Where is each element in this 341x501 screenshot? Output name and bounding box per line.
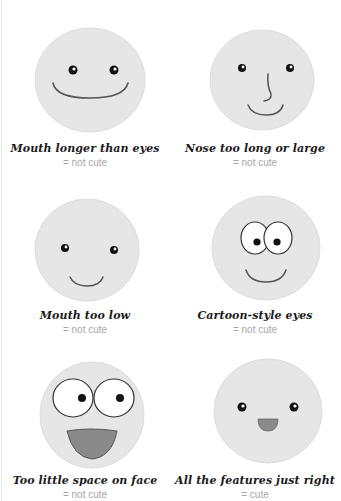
panel-title: Mouth longer than eyes (0, 142, 170, 155)
panel-just-right: All the features just right = cute (170, 335, 340, 500)
panel-nose-long: Nose too long or large = not cute (170, 0, 340, 165)
panel-title: Mouth too low (0, 309, 170, 322)
panel-mouth-low: Mouth too low = not cute (0, 170, 170, 335)
panel-little-space: Too little space on face = not cute (0, 335, 170, 500)
panel-verdict: = not cute (170, 324, 340, 335)
face-long-nose-icon (170, 0, 341, 165)
panel-verdict: = cute (170, 489, 340, 500)
panel-verdict: = not cute (0, 324, 170, 335)
panel-verdict: = not cute (0, 489, 170, 500)
face-wide-mouth-icon (0, 0, 170, 165)
panel-title: Too little space on face (0, 474, 170, 487)
panel-mouth-longer: Mouth longer than eyes = not cute (0, 0, 170, 165)
panel-verdict: = not cute (0, 157, 170, 168)
panel-title: Cartoon-style eyes (170, 309, 340, 322)
panel-verdict: = not cute (170, 157, 340, 168)
panel-title: All the features just right (170, 474, 340, 487)
panel-cartoon-eyes: Cartoon-style eyes = not cute (170, 170, 340, 335)
panel-title: Nose too long or large (170, 142, 340, 155)
